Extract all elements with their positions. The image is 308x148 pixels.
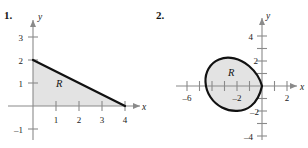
region-label-r: R (55, 78, 63, 89)
y-axis-label: y (37, 12, 43, 22)
y-tick-label-minus-4: –4 (243, 132, 254, 142)
y-axis-arrow-icon (259, 18, 265, 25)
figure-2-cardioid-region: 2. (154, 0, 308, 148)
figure-1-plot: x y 1 2 3 4 3 2 1 –1 R (0, 0, 154, 148)
figure-sheet: 1. x y 1 (0, 0, 308, 148)
y-tick-label-4: 4 (249, 32, 254, 42)
y-tick-label-2: 2 (254, 56, 259, 66)
x-tick-label-minus-2: –2 (232, 93, 242, 103)
y-tick-label-minus-1: –1 (13, 125, 23, 135)
x-tick-label-1: 1 (54, 115, 59, 125)
x-axis-arrow-icon (290, 83, 297, 89)
y-axis-arrow-icon (30, 20, 36, 27)
x-tick-label-4: 4 (123, 115, 128, 125)
x-tick-label-2: 2 (285, 93, 290, 103)
x-axis-label: x (141, 102, 147, 112)
y-tick-label-minus-2: –2 (249, 107, 259, 117)
x-axis-label: x (299, 82, 305, 92)
x-tick-label-3: 3 (100, 115, 105, 125)
x-axis-arrow-icon (133, 103, 140, 109)
x-tick-label-2: 2 (77, 115, 82, 125)
y-tick-label-1: 1 (19, 79, 24, 89)
x-tick-label-minus-6: –6 (182, 93, 193, 103)
figure-2-plot: x y –6 –2 2 4 2 –2 –4 R (154, 0, 308, 148)
y-tick-label-2: 2 (19, 56, 24, 66)
y-tick-label-3: 3 (19, 33, 24, 43)
y-axis-label: y (265, 11, 271, 21)
region-label-r: R (227, 67, 235, 78)
figure-1-triangular-region: 1. x y 1 (0, 0, 154, 148)
